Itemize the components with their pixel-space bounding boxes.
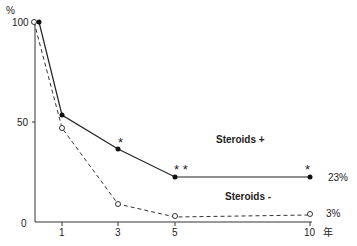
series-steroids-plus-markers [37, 20, 313, 180]
x-axis-unit: 年 [323, 226, 333, 238]
x-tick-label-10: 10 [304, 227, 316, 238]
series-label-steroids-plus: Steroids + [216, 134, 265, 145]
significance-star-10: * [305, 162, 310, 177]
x-tick-label-1: 1 [59, 227, 65, 238]
survival-chart: % 100 50 0 1 3 5 10 年 * * * * Steroids +… [0, 0, 357, 246]
y-axis-unit: % [6, 5, 15, 16]
series-label-steroids-minus: Steroids - [225, 191, 271, 202]
x-tick-label-3: 3 [115, 227, 121, 238]
y-tick-label-50: 50 [17, 117, 29, 128]
significance-star-5: * * [174, 162, 188, 177]
series-steroids-plus-line [39, 22, 310, 177]
end-label-steroids-minus: 3% [326, 208, 341, 219]
end-label-steroids-plus: 23% [328, 172, 348, 183]
series-steroids-minus-line [34, 22, 310, 217]
y-tick-label-100: 100 [12, 17, 29, 28]
series-steroids-minus-markers [32, 20, 313, 219]
x-tick-label-5: 5 [172, 227, 178, 238]
y-tick-label-0: 0 [21, 218, 27, 229]
significance-star-3: * [118, 135, 123, 150]
